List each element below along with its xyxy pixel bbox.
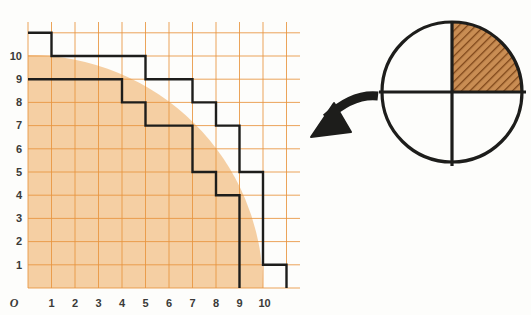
y-tick-label: 2 [16,235,22,247]
x-tick-label: 6 [166,297,172,309]
x-tick-label: 5 [142,297,148,309]
x-tick-label: 9 [236,297,242,309]
x-tick-label: 2 [72,297,78,309]
origin-label: O [10,296,19,310]
y-tick-label: 8 [16,96,22,108]
y-tick-label: 10 [10,50,22,62]
y-tick-label: 7 [16,119,22,131]
x-tick-label: 3 [95,297,101,309]
x-tick-label: 8 [213,297,219,309]
x-tick-label: 10 [258,297,270,309]
x-tick-label: 4 [119,297,126,309]
y-tick-label: 4 [16,189,23,201]
y-tick-label: 5 [16,166,22,178]
curved-arrow-icon [311,96,378,137]
y-tick-label: 1 [16,259,22,271]
circle-quadrants-diagram [379,22,526,166]
y-tick-label: 9 [16,73,22,85]
x-tick-label: 7 [189,297,195,309]
y-tick-label: 6 [16,143,22,155]
y-axis-tick-labels: 1 2 3 4 5 6 7 8 9 10 [10,50,23,271]
x-axis-tick-labels: 1 2 3 4 5 6 7 8 9 10 [48,297,270,309]
figure-svg: 1 2 3 4 5 6 7 8 9 10 1 2 3 4 5 6 7 8 [0,0,531,315]
y-tick-label: 3 [16,212,22,224]
graph-panel: 1 2 3 4 5 6 7 8 9 10 1 2 3 4 5 6 7 8 [10,22,300,310]
x-tick-label: 1 [48,297,54,309]
figure-root: 1 2 3 4 5 6 7 8 9 10 1 2 3 4 5 6 7 8 [0,0,531,315]
